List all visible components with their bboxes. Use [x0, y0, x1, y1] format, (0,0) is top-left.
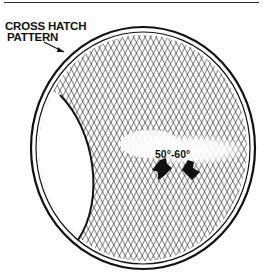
- hone-angle-label: 50°-60°: [155, 148, 190, 160]
- callout-line-2: PATTERN: [5, 32, 86, 43]
- cross-hatch-callout-label: CROSS HATCH PATTERN: [5, 21, 86, 43]
